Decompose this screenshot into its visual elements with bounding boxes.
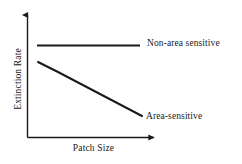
y-axis-label: Extinction Rate <box>13 31 23 127</box>
series-line-area-sensitive <box>38 62 142 116</box>
series-label-area-sensitive: Area-sensitive <box>146 111 202 121</box>
chart-plot-area <box>0 0 242 164</box>
series-label-non-area-sensitive: Non-area sensitive <box>147 38 220 48</box>
extinction-rate-patch-size-figure: Extinction Rate Patch Size Non-area sens… <box>0 0 242 164</box>
x-axis-label: Patch Size <box>27 143 160 153</box>
